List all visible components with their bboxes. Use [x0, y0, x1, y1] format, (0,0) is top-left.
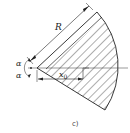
alpha-bottom-label: α [16, 71, 22, 80]
radius-label: R [54, 22, 62, 32]
sector-diagram: R x0 α α c) [0, 0, 130, 133]
angle-alpha-marks: α α [16, 58, 32, 80]
figure-caption: c) [72, 120, 79, 128]
alpha-top-label: α [16, 59, 22, 68]
